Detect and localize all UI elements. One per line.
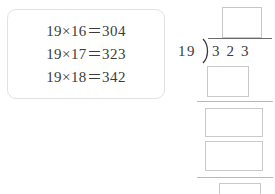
dividend-row: 19 323 (176, 40, 275, 64)
partial-product-2-input-box[interactable] (205, 141, 263, 171)
equation-row-2: 19×17＝323 (46, 44, 126, 65)
division-bracket-icon (202, 38, 211, 64)
equation-row-3: 19×18＝342 (46, 67, 126, 88)
division-vinculum (208, 38, 272, 39)
subtraction-rule-2 (197, 177, 273, 178)
subtraction-rule-1 (197, 101, 273, 102)
dividend-value: 323 (212, 41, 256, 61)
quotient-input-box[interactable] (222, 7, 262, 38)
worksheet-canvas: 19×16＝304 19×17＝323 19×18＝342 19 323 (0, 0, 275, 194)
partial-product-1-input-box[interactable] (207, 66, 249, 97)
partial-remainder-1-input-box[interactable] (205, 108, 263, 137)
equation-list: 19×16＝304 19×17＝323 19×18＝342 (46, 21, 126, 88)
multiplication-reference-card: 19×16＝304 19×17＝323 19×18＝342 (7, 9, 165, 99)
quotient-row (176, 7, 275, 39)
equation-row-1: 19×16＝304 (46, 21, 126, 42)
divisor-value: 19 (178, 41, 196, 61)
final-remainder-input-box[interactable] (219, 183, 261, 194)
long-division-problem: 19 323 (176, 0, 275, 194)
